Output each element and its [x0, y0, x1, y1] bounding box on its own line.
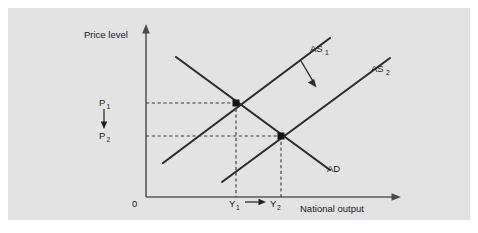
as1-curve — [163, 38, 330, 163]
output-tick-y2-subscript: 2 — [277, 204, 281, 211]
supply-shift-arrow-icon — [301, 61, 317, 88]
price-tick-p2: P 2 — [99, 130, 111, 143]
x-axis-arrow-icon — [392, 193, 402, 201]
curve-label-ad: AD — [327, 163, 340, 174]
output-tick-y1: Y 1 — [229, 198, 240, 211]
curve-label-ad-text: AD — [327, 163, 340, 174]
y-axis-arrow-icon — [142, 24, 150, 34]
price-tick-p2-label: P — [99, 130, 105, 141]
equilibrium-point-e1 — [233, 100, 240, 107]
ad-curve — [176, 57, 330, 170]
curve-label-as2-subscript: 2 — [386, 69, 390, 76]
curve-label-as2-text: AS — [371, 63, 384, 74]
price-tick-p2-subscript: 2 — [107, 136, 111, 143]
output-tick-y2-label: Y — [270, 198, 277, 209]
output-right-arrow-icon — [245, 199, 266, 205]
curve-label-as1: AS 1 — [310, 43, 329, 56]
price-tick-p1-subscript: 1 — [107, 103, 111, 110]
price-tick-p1: P 1 — [99, 97, 111, 110]
y-axis-label: Price level — [84, 29, 128, 40]
origin-label: 0 — [132, 198, 137, 209]
output-tick-y1-subscript: 1 — [236, 204, 240, 211]
curves-group — [163, 38, 390, 182]
axes-group — [142, 24, 401, 201]
curve-label-as2: AS 2 — [371, 63, 390, 76]
price-tick-p1-label: P — [99, 97, 105, 108]
output-tick-y2: Y 2 — [270, 198, 281, 211]
curve-label-as1-text: AS — [310, 43, 323, 54]
guide-lines-group — [146, 103, 281, 197]
price-down-arrow-icon — [101, 109, 107, 129]
as-ad-chart: Price level National output 0 P 1 P 2 Y … — [0, 0, 478, 233]
as2-curve — [222, 58, 390, 182]
equilibrium-point-e2 — [278, 133, 285, 140]
curve-label-as1-subscript: 1 — [325, 49, 329, 56]
output-tick-y1-label: Y — [229, 198, 236, 209]
x-axis-label: National output — [300, 203, 364, 214]
